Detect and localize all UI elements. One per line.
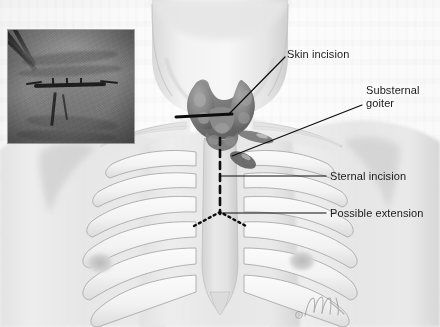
label-skin-incision: Skin incision xyxy=(287,48,349,61)
label-possible-extension: Possible extension xyxy=(330,207,424,220)
inset-clinical-photo[interactable] xyxy=(8,30,134,143)
goiter-nodule-4 xyxy=(238,112,250,124)
artist-signature-mark xyxy=(292,292,354,322)
goiter-nodule-6 xyxy=(208,135,220,145)
inset-photo-vignette xyxy=(8,30,134,143)
nipple-left xyxy=(87,253,113,273)
goiter-nodule-7 xyxy=(224,136,236,146)
label-sternal-incision: Sternal incision xyxy=(330,170,406,183)
nipple-right xyxy=(289,251,315,271)
neck-group xyxy=(150,0,290,116)
label-substernal-goiter-line2: goiter xyxy=(366,97,394,109)
goiter-nodule-1 xyxy=(194,93,206,107)
label-substernal-goiter: Substernalgoiter xyxy=(366,84,420,109)
label-substernal-goiter-line1: Substernal xyxy=(366,84,420,96)
goiter-nodule-5 xyxy=(215,123,229,133)
medical-illustration-figure: Skin incision Substernalgoiter Sternal i… xyxy=(0,0,440,327)
